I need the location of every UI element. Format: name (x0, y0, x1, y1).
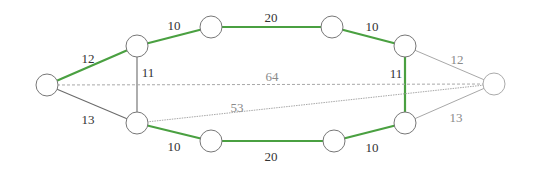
edge-weight-label: 11 (390, 66, 403, 81)
edge-weight-label: 12 (82, 51, 95, 66)
edge-n6-n5 (137, 84, 494, 123)
edge-weight-label: 53 (231, 100, 244, 115)
edge-weight-label: 13 (82, 112, 95, 127)
graph-node-n5 (483, 73, 505, 95)
edge-weight-label: 10 (366, 19, 379, 34)
edge-weight-label: 10 (168, 139, 181, 154)
edge-weight-label: 20 (265, 10, 278, 25)
edge-weight-label: 10 (366, 140, 379, 155)
graph-node-n8 (323, 130, 345, 152)
graph-node-n7 (200, 130, 222, 152)
edge-weight-label: 64 (266, 69, 280, 84)
edge-weight-label: 20 (265, 149, 278, 164)
graph-node-n2 (200, 16, 222, 38)
edge-weight-label: 12 (451, 52, 464, 67)
graph-node-n3 (321, 16, 343, 38)
edge-n0-n5 (47, 84, 494, 85)
graph-node-n9 (394, 112, 416, 134)
graph-svg: 1210201011121313111020106453 (0, 0, 535, 170)
graph-node-n1 (126, 35, 148, 57)
edges-layer (47, 27, 494, 141)
graph-node-n6 (126, 112, 148, 134)
graph-node-n4 (394, 35, 416, 57)
graph-diagram: 1210201011121313111020106453 (0, 0, 535, 170)
edge-weight-label: 11 (142, 65, 155, 80)
edge-weight-label: 10 (168, 18, 181, 33)
edge-weight-label: 13 (450, 110, 463, 125)
graph-node-n0 (36, 74, 58, 96)
edge-n4-n5 (405, 46, 494, 84)
